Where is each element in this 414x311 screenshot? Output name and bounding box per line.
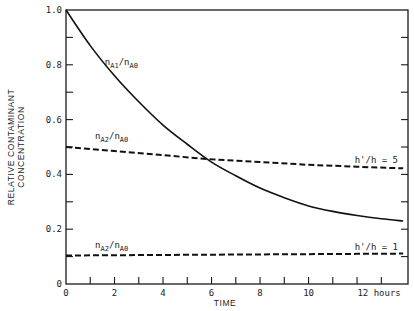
y-tick-label: 0.8 [46,60,62,70]
x-tick-label: 0 [63,288,68,298]
x-tick-label: 10 [303,288,314,298]
series-line-1 [66,147,403,168]
series-line-2 [66,254,403,256]
annotations: nA1/nA0nA2/nA0h'/h = 5nA2/nA0h'/h = 1 [95,57,398,254]
x-tick-label: 12 hours [357,288,400,298]
annotation-label: nA1/nA0 [105,57,138,70]
x-tick-label: 6 [209,288,214,298]
y-axis-title: RELATIVE CONTAMINANTCONCENTRATION [6,89,26,206]
annotation-label: h'/h = 5 [355,155,398,165]
series-line-0 [66,10,403,221]
x-tick-label: 4 [160,288,165,298]
concentration-chart: 024681012 hours00.20.40.60.81.0 nA1/nA0n… [0,0,414,311]
y-axis-title-line: CONCENTRATION [16,106,26,187]
y-tick-label: 0.2 [46,224,62,234]
y-tick-label: 1.0 [46,5,62,15]
y-tick-label: 0.6 [46,115,62,125]
x-tick-label: 2 [112,288,117,298]
annotation-label: nA2/nA0 [95,131,128,144]
x-axis-title: TIME [214,298,237,308]
annotation-label: nA2/nA0 [95,240,128,253]
y-tick-label: 0 [57,279,62,289]
x-tick-label: 8 [257,288,262,298]
y-tick-label: 0.4 [46,169,62,179]
annotation-label: h'/h = 1 [355,242,398,252]
y-axis-title-line: RELATIVE CONTAMINANT [6,89,16,206]
